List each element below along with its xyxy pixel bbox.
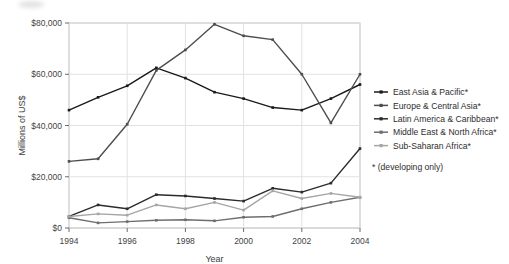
series-1-point-2 bbox=[126, 123, 129, 126]
series-3-point-4 bbox=[184, 219, 187, 222]
series-4-point-5 bbox=[213, 201, 216, 204]
series-3-point-3 bbox=[155, 219, 158, 222]
series-0-point-2 bbox=[126, 84, 129, 87]
series-1-point-4 bbox=[184, 49, 187, 52]
series-3-point-8 bbox=[301, 207, 304, 210]
legend-marker-point-0 bbox=[380, 90, 383, 93]
x-axis-title: Year bbox=[205, 254, 223, 264]
legend-marker-point-2 bbox=[380, 117, 383, 120]
series-4-point-0 bbox=[68, 215, 71, 218]
series-2-point-1 bbox=[97, 204, 100, 207]
series-1-point-5 bbox=[213, 23, 216, 26]
series-2-point-5 bbox=[213, 197, 216, 200]
series-0-point-4 bbox=[184, 77, 187, 80]
series-4-point-7 bbox=[271, 190, 274, 193]
x-tick-label-2: 1998 bbox=[176, 236, 195, 246]
series-1-point-8 bbox=[301, 73, 304, 76]
series-2-point-7 bbox=[271, 187, 274, 190]
series-2-point-6 bbox=[242, 200, 245, 203]
y-tick-label-2: $40,000 bbox=[31, 121, 62, 131]
series-3-point-6 bbox=[242, 216, 245, 219]
x-tick-label-1: 1996 bbox=[118, 236, 137, 246]
series-3-point-5 bbox=[213, 220, 216, 223]
series-1-point-6 bbox=[242, 35, 245, 38]
series-0-point-8 bbox=[301, 109, 304, 112]
series-3-point-7 bbox=[271, 215, 274, 218]
series-2-point-4 bbox=[184, 195, 187, 198]
legend-label-4: Sub-Saharan Africa* bbox=[393, 141, 472, 151]
line-chart: $0$20,000$40,000$60,000$80,0001994199619… bbox=[0, 0, 509, 264]
series-0-point-9 bbox=[330, 97, 333, 100]
y-tick-label-1: $20,000 bbox=[31, 172, 62, 182]
series-1-point-7 bbox=[271, 38, 274, 41]
series-1-point-0 bbox=[68, 160, 71, 163]
series-2-point-10 bbox=[359, 147, 362, 150]
series-3-point-2 bbox=[126, 220, 129, 223]
series-3-point-9 bbox=[330, 201, 333, 204]
legend-label-0: East Asia & Pacific* bbox=[393, 87, 469, 97]
legend-marker-point-4 bbox=[380, 144, 383, 147]
chart-figure: $0$20,000$40,000$60,000$80,0001994199619… bbox=[0, 0, 509, 264]
y-tick-label-3: $60,000 bbox=[31, 69, 62, 79]
series-1-point-10 bbox=[359, 73, 362, 76]
series-4-point-3 bbox=[155, 204, 158, 207]
x-tick-label-0: 1994 bbox=[60, 236, 79, 246]
legend-marker-point-1 bbox=[380, 104, 383, 107]
y-axis-title: Millions of US$ bbox=[17, 95, 27, 155]
series-4-point-6 bbox=[242, 209, 245, 212]
series-0-point-10 bbox=[359, 83, 362, 86]
y-tick-label-0: $0 bbox=[53, 223, 63, 233]
legend-marker-point-3 bbox=[380, 131, 383, 134]
series-4-point-8 bbox=[301, 197, 304, 200]
legend-footnote: * (developing only) bbox=[372, 162, 443, 172]
series-2-point-9 bbox=[330, 182, 333, 185]
series-0-point-7 bbox=[271, 106, 274, 109]
series-1-point-9 bbox=[330, 122, 333, 125]
series-2-point-2 bbox=[126, 207, 129, 210]
image-artifact-smudge bbox=[18, 1, 44, 8]
series-1-point-1 bbox=[97, 158, 100, 161]
x-tick-label-3: 2000 bbox=[234, 236, 253, 246]
legend-label-1: Europe & Central Asia* bbox=[393, 101, 482, 111]
series-0-point-0 bbox=[68, 109, 71, 112]
series-0-point-3 bbox=[155, 67, 158, 70]
series-1-point-3 bbox=[155, 69, 158, 72]
series-4-point-2 bbox=[126, 214, 129, 217]
legend-label-3: Middle East & North Africa* bbox=[393, 127, 497, 137]
y-tick-label-4: $80,000 bbox=[31, 18, 62, 28]
series-2-point-8 bbox=[301, 191, 304, 194]
series-3-point-1 bbox=[97, 222, 100, 225]
series-0-point-1 bbox=[97, 96, 100, 99]
series-4-point-9 bbox=[330, 192, 333, 195]
series-2-point-3 bbox=[155, 193, 158, 196]
series-4-point-10 bbox=[359, 196, 362, 199]
x-tick-label-4: 2002 bbox=[292, 236, 311, 246]
series-4-point-1 bbox=[97, 213, 100, 216]
legend-label-2: Latin America & Caribbean* bbox=[393, 114, 499, 124]
series-4-point-4 bbox=[184, 207, 187, 210]
series-0-point-6 bbox=[242, 97, 245, 100]
series-0-point-5 bbox=[213, 91, 216, 94]
x-tick-label-5: 2004 bbox=[351, 236, 370, 246]
